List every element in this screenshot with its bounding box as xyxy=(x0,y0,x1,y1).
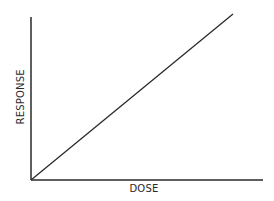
x-axis-label: DOSE xyxy=(120,183,168,194)
dose-response-line xyxy=(31,14,233,180)
chart-canvas xyxy=(0,0,274,201)
y-axis-label: RESPONSE xyxy=(15,73,26,125)
